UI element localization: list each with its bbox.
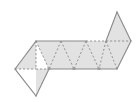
net-vertex-mark-b4 [97, 68, 100, 70]
net-diagram-svg [0, 0, 140, 102]
net-vertex-mark-b2 [47, 68, 50, 70]
geometric-net-figure [0, 0, 140, 102]
net-vertex-mark-b3 [72, 68, 75, 70]
